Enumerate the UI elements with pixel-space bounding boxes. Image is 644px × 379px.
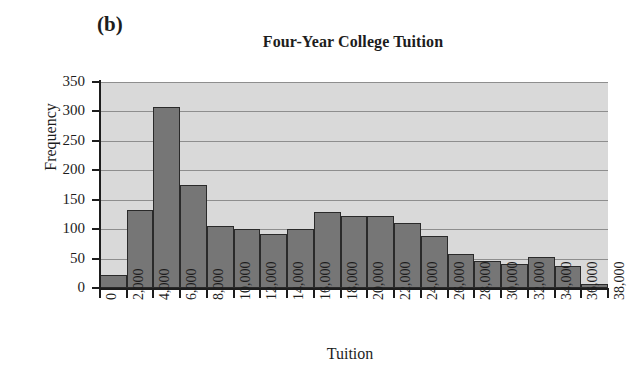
y-tick-label: 200 — [33, 162, 85, 177]
x-tick-mark — [340, 289, 342, 298]
panel-label: (b) — [97, 14, 123, 35]
x-tick-mark — [607, 289, 609, 298]
x-tick-mark — [233, 289, 235, 298]
y-tick-label: 150 — [33, 192, 85, 207]
y-tick-label: 100 — [33, 221, 85, 236]
x-tick-mark — [126, 289, 128, 298]
x-tick-mark — [152, 289, 154, 298]
chart-title: Four-Year College Tuition — [188, 33, 518, 51]
x-tick-label: 34,000 — [560, 262, 574, 301]
x-tick-label: 26,000 — [453, 262, 467, 301]
x-tick-label: 10,000 — [239, 262, 253, 301]
x-tick-label: 24,000 — [426, 262, 440, 301]
x-tick-mark — [393, 289, 395, 298]
bars-layer — [100, 82, 608, 288]
x-tick-label: 36,000 — [586, 262, 600, 301]
x-tick-mark — [259, 289, 261, 298]
histogram-bar — [100, 275, 127, 288]
y-tick-mark — [92, 110, 100, 112]
x-tick-label: 6,000 — [185, 269, 199, 301]
y-tick-mark — [92, 140, 100, 142]
x-tick-mark — [473, 289, 475, 298]
y-tick-mark — [92, 169, 100, 171]
x-tick-label: 22,000 — [399, 262, 413, 301]
x-tick-mark — [206, 289, 208, 298]
x-tick-mark — [286, 289, 288, 298]
x-tick-mark — [447, 289, 449, 298]
x-tick-label: 28,000 — [479, 262, 493, 301]
x-tick-label: 0 — [105, 293, 119, 300]
histogram-bar — [153, 107, 180, 288]
x-tick-mark — [313, 289, 315, 298]
x-tick-mark — [580, 289, 582, 298]
x-tick-label: 38,000 — [613, 262, 627, 301]
x-tick-label: 12,000 — [265, 262, 279, 301]
x-tick-label: 30,000 — [506, 262, 520, 301]
x-tick-label: 18,000 — [346, 262, 360, 301]
x-axis-title: Tuition — [200, 345, 500, 363]
x-tick-label: 2,000 — [132, 269, 146, 301]
x-tick-label: 8,000 — [212, 269, 226, 301]
x-tick-label: 14,000 — [292, 262, 306, 301]
x-tick-mark — [527, 289, 529, 298]
y-tick-mark — [92, 258, 100, 260]
x-tick-label: 32,000 — [533, 262, 547, 301]
x-tick-mark — [179, 289, 181, 298]
x-tick-mark — [554, 289, 556, 298]
x-tick-label: 20,000 — [372, 262, 386, 301]
x-tick-mark — [366, 289, 368, 298]
y-tick-mark — [92, 228, 100, 230]
y-tick-label: 0 — [33, 280, 85, 295]
x-tick-label: 16,000 — [319, 262, 333, 301]
y-tick-label: 50 — [33, 251, 85, 266]
x-tick-mark — [420, 289, 422, 298]
y-tick-mark — [92, 199, 100, 201]
x-tick-label: 4,000 — [158, 269, 172, 301]
y-tick-mark — [92, 81, 100, 83]
x-tick-mark — [99, 289, 101, 298]
y-tick-label: 350 — [33, 74, 85, 89]
y-tick-label: 300 — [33, 103, 85, 118]
x-tick-mark — [500, 289, 502, 298]
plot-area — [100, 82, 608, 288]
y-tick-label: 250 — [33, 133, 85, 148]
histogram-figure: (b) Four-Year College Tuition Frequency … — [0, 0, 644, 379]
